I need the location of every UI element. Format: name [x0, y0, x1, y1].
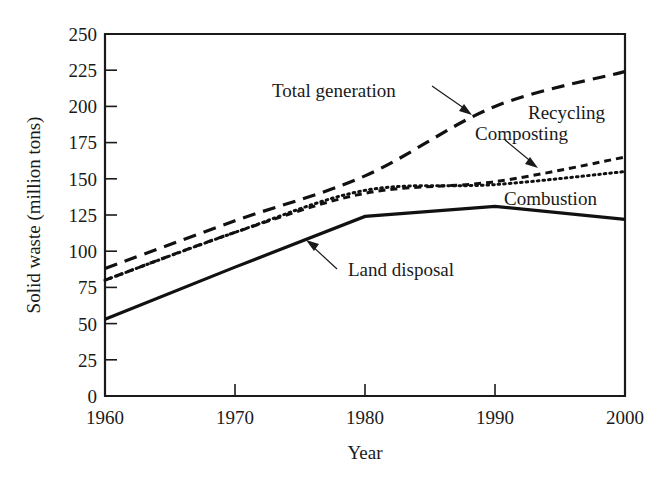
x-tick-label-1970: 1970: [216, 407, 254, 428]
label-land-disposal: Land disposal: [348, 259, 454, 280]
x-tick-label-1960: 1960: [86, 407, 124, 428]
x-axis-title: Year: [347, 442, 383, 463]
y-tick-label-150: 150: [69, 169, 98, 190]
y-tick-label-50: 50: [78, 314, 97, 335]
label-total-generation: Total generation: [272, 80, 396, 101]
y-tick-label-0: 0: [88, 386, 98, 407]
x-tick-label-2000: 2000: [606, 407, 644, 428]
x-tick-label-1990: 1990: [476, 407, 514, 428]
label-combustion: Combustion: [504, 188, 597, 209]
y-tick-label-125: 125: [69, 205, 98, 226]
x-tick-label-1980: 1980: [346, 407, 384, 428]
y-axis-tick-labels: 250 225 200 175 150 125 100 75 50 25 0: [69, 24, 98, 407]
annotation-leaders: [306, 86, 538, 269]
y-axis-ticks: [105, 34, 117, 360]
y-tick-label-25: 25: [78, 350, 97, 371]
chart-figure: 250 225 200 175 150 125 100 75 50 25 0 1…: [0, 0, 672, 487]
label-composting: Composting: [475, 123, 568, 144]
y-tick-label-200: 200: [69, 96, 98, 117]
label-recycling: Recycling: [528, 102, 606, 123]
y-axis-title: Solid waste (million tons): [23, 117, 45, 314]
y-tick-label-75: 75: [78, 277, 97, 298]
y-tick-label-100: 100: [69, 241, 98, 262]
x-axis-ticks: [235, 384, 495, 396]
x-axis-tick-labels: 1960 1970 1980 1990 2000: [86, 407, 644, 428]
y-tick-label-225: 225: [69, 60, 98, 81]
line-chart: 250 225 200 175 150 125 100 75 50 25 0 1…: [0, 0, 672, 487]
y-tick-label-175: 175: [69, 132, 98, 153]
y-tick-label-250: 250: [69, 24, 98, 45]
arrowhead-land-disposal: [306, 240, 319, 251]
